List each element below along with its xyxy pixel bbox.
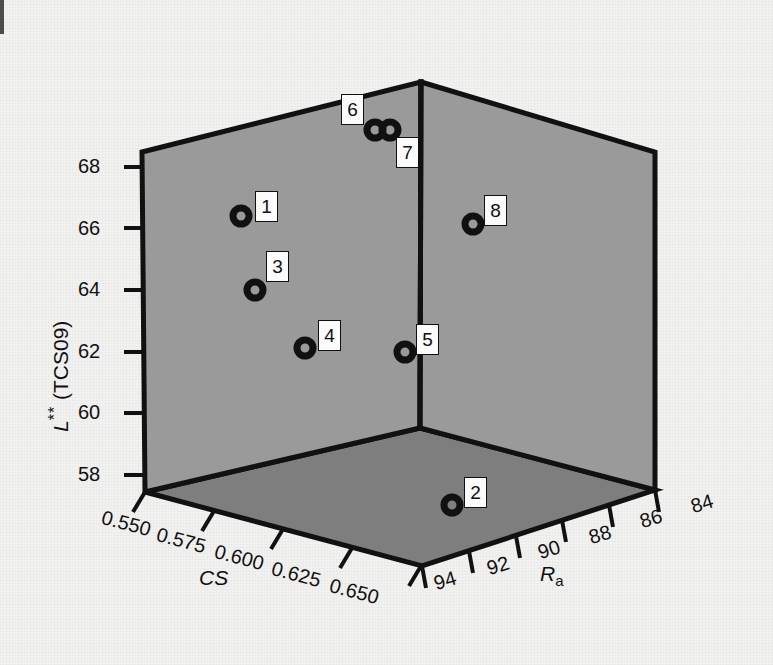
left-wall-panel: [142, 82, 421, 492]
z-axis-title: L** (TCS09): [46, 321, 73, 432]
back-corner-edge: [420, 82, 421, 428]
z-axis-title-sup: **: [46, 406, 63, 420]
z-tick-label: 64: [78, 278, 100, 301]
ra-axis-title-base: R: [540, 562, 555, 585]
data-point-label: 8: [484, 195, 507, 226]
data-point-label: 5: [416, 324, 439, 355]
plot-3d-box: [0, 0, 773, 665]
z-tick-label: 58: [78, 463, 100, 486]
ra-axis-title-sub: a: [555, 572, 563, 589]
z-axis-title-base: L: [49, 420, 72, 432]
z-tick-label: 62: [78, 340, 100, 363]
z-tick-label: 66: [78, 217, 100, 240]
data-point-label: 3: [266, 251, 289, 282]
data-point-label: 1: [255, 191, 278, 222]
cs-axis-title-text: CS: [199, 566, 228, 589]
z-tick-label: 68: [78, 155, 100, 178]
ra-axis-title: Ra: [540, 562, 564, 589]
data-point-label: 7: [396, 137, 419, 168]
data-point-label: 6: [341, 94, 364, 125]
right-wall-panel: [420, 82, 655, 490]
data-point-label: 2: [464, 477, 487, 508]
figure-canvas: 686664626058 0.5500.5750.6000.6250.650 9…: [0, 0, 773, 665]
z-axis-title-paren: (TCS09): [49, 321, 72, 406]
z-tick-label: 60: [78, 401, 100, 424]
cs-axis-title: CS: [199, 566, 228, 590]
data-point-label: 4: [318, 320, 341, 351]
